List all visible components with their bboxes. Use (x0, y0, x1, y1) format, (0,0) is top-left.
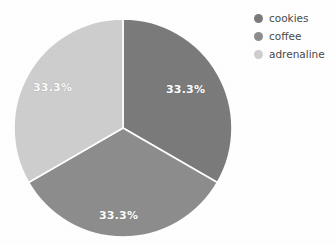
legend-swatch-circle-icon (254, 50, 263, 59)
legend-label-cookies: cookies (269, 12, 309, 24)
legend-item-coffee[interactable]: coffee (254, 27, 335, 45)
legend-item-adrenaline[interactable]: adrenaline (254, 45, 335, 63)
pie-slice-label-coffee: 33.3% (99, 209, 138, 222)
legend-label-adrenaline: adrenaline (269, 48, 325, 60)
legend-item-cookies[interactable]: cookies (254, 9, 335, 27)
pie-svg (13, 18, 233, 238)
pie-slice-label-adrenaline: 33.3% (33, 81, 72, 94)
pie-slice-label-cookies: 33.3% (166, 83, 205, 96)
legend-swatch-circle-icon (254, 32, 263, 41)
pie-graphic (13, 18, 233, 238)
pie-chart: 33.3% 33.3% 33.3% cookies coffee adrenal… (0, 0, 335, 246)
legend-swatch-circle-icon (254, 14, 263, 23)
legend-label-coffee: coffee (269, 30, 301, 42)
legend: cookies coffee adrenaline (254, 9, 335, 63)
